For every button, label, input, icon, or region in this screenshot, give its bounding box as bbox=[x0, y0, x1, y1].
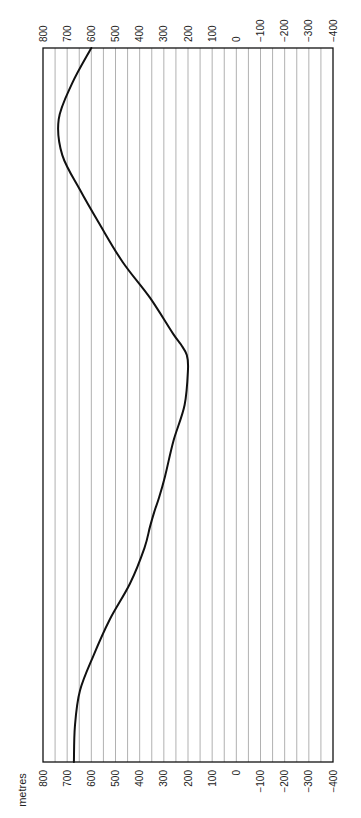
top-tick-label: −400 bbox=[328, 19, 339, 42]
bottom-tick-label: −100 bbox=[255, 770, 266, 793]
top-tick-label: 600 bbox=[86, 25, 97, 42]
bottom-tick-label: −200 bbox=[279, 770, 290, 793]
axis-unit-label: metres bbox=[16, 773, 28, 807]
top-axis-tick-labels: 8007006005004003002001000−100−200−300−40… bbox=[38, 19, 339, 42]
bottom-tick-label: 400 bbox=[134, 770, 145, 787]
top-tick-label: 200 bbox=[183, 25, 194, 42]
top-tick-label: −200 bbox=[279, 19, 290, 42]
bottom-tick-label: 0 bbox=[231, 770, 242, 776]
bottom-tick-label: −400 bbox=[328, 770, 339, 793]
bottom-tick-label: 500 bbox=[110, 770, 121, 787]
bottom-tick-label: 700 bbox=[62, 770, 73, 787]
bottom-tick-label: 200 bbox=[183, 770, 194, 787]
top-tick-label: −300 bbox=[303, 19, 314, 42]
profile-curve bbox=[58, 48, 188, 762]
top-tick-label: 800 bbox=[38, 25, 49, 42]
bottom-tick-label: −300 bbox=[303, 770, 314, 793]
top-tick-label: 400 bbox=[134, 25, 145, 42]
top-tick-label: 500 bbox=[110, 25, 121, 42]
bottom-tick-label: 600 bbox=[86, 770, 97, 787]
top-tick-label: −100 bbox=[255, 19, 266, 42]
elevation-profile-chart: 8007006005004003002001000−100−200−300−40… bbox=[0, 0, 361, 818]
top-tick-label: 300 bbox=[158, 25, 169, 42]
bottom-axis-tick-labels: 8007006005004003002001000−100−200−300−40… bbox=[38, 770, 339, 793]
bottom-tick-label: 800 bbox=[38, 770, 49, 787]
top-tick-label: 0 bbox=[231, 36, 242, 42]
top-tick-label: 700 bbox=[62, 25, 73, 42]
gridlines bbox=[55, 48, 321, 762]
bottom-tick-label: 300 bbox=[158, 770, 169, 787]
bottom-tick-label: 100 bbox=[207, 770, 218, 787]
top-tick-label: 100 bbox=[207, 25, 218, 42]
